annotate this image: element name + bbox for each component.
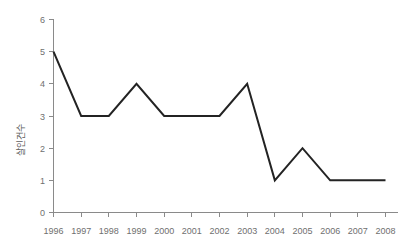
x-tick-label: 2000: [154, 226, 174, 236]
x-tick-label: 1998: [99, 226, 119, 236]
y-tick-label: 1: [40, 176, 45, 186]
y-axis-label: 살인건수: [16, 124, 26, 156]
chart-page: 살인건수 6 5 4 3 2 1 0: [0, 0, 409, 250]
y-tick-label: 3: [40, 112, 45, 122]
x-tick-label: 1996: [43, 226, 63, 236]
x-tick-label: 2002: [209, 226, 229, 236]
y-tick-label: 4: [40, 79, 45, 89]
x-tick-label: 2003: [237, 226, 257, 236]
x-tick-label: 1997: [71, 226, 91, 236]
y-tick-label: 2: [40, 144, 45, 154]
x-tick-label: 2006: [320, 226, 340, 236]
line-chart: 살인건수 6 5 4 3 2 1 0: [0, 0, 409, 250]
x-tick-label: 2004: [265, 226, 285, 236]
y-tick-label: 0: [40, 208, 45, 218]
x-tick-label: 1999: [126, 226, 146, 236]
x-tick-label: 2001: [182, 226, 202, 236]
x-tick-label: 2008: [375, 226, 395, 236]
x-tick-label: 2005: [292, 226, 312, 236]
x-tick-label: 2007: [348, 226, 368, 236]
y-tick-label: 6: [40, 15, 45, 25]
y-tick-label: 5: [40, 47, 45, 57]
